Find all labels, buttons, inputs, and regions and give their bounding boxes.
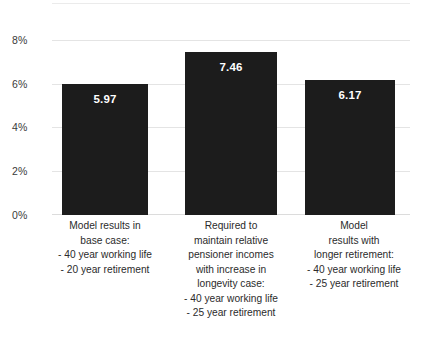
category-label-base-case: Model results in base case: - 40 year wo… <box>39 219 171 277</box>
category-line: results with <box>288 234 420 249</box>
gridline-8 <box>52 40 410 41</box>
bar-longer-retirement[interactable]: 6.17 <box>305 80 395 215</box>
chart-top-border <box>52 3 410 4</box>
category-line: - 40 year working life <box>288 263 420 278</box>
category-label-longer-retirement: Model results with longer retirement: - … <box>288 219 420 292</box>
y-axis-tick-6: 6% <box>12 79 52 89</box>
bar-value-label: 7.46 <box>185 61 277 73</box>
bar-required-longevity[interactable]: 7.46 <box>185 52 277 215</box>
category-line: maintain relative <box>165 234 297 249</box>
category-line: longevity case: <box>165 277 297 292</box>
category-line: with increase in <box>165 263 297 278</box>
category-line: Required to <box>165 219 297 234</box>
category-line: longer retirement: <box>288 248 420 263</box>
category-line: - 40 year working life <box>39 248 171 263</box>
y-axis-tick-8: 8% <box>12 35 52 45</box>
y-axis-tick-4: 4% <box>12 122 52 132</box>
category-line: - 25 year retirement <box>165 306 297 321</box>
bar-value-label: 5.97 <box>62 93 148 105</box>
category-label-required-longevity: Required to maintain relative pensioner … <box>165 219 297 321</box>
x-axis-category-labels: Model results in base case: - 40 year wo… <box>52 219 410 345</box>
category-line: - 20 year retirement <box>39 263 171 278</box>
category-line: - 40 year working life <box>165 292 297 307</box>
category-line: Model results in <box>39 219 171 234</box>
y-axis: 8% 6% 4% 2% 0% <box>8 40 52 215</box>
category-line: pensioner incomes <box>165 248 297 263</box>
category-line: - 25 year retirement <box>288 277 420 292</box>
bar-base-case[interactable]: 5.97 <box>62 84 148 215</box>
bar-chart: 8% 6% 4% 2% 0% 5.97 7.46 6.17 Model resu… <box>0 0 435 345</box>
category-line: base case: <box>39 234 171 249</box>
category-line: Model <box>288 219 420 234</box>
plot-area: 5.97 7.46 6.17 <box>52 40 410 215</box>
y-axis-tick-2: 2% <box>12 166 52 176</box>
bar-value-label: 6.17 <box>305 89 395 101</box>
